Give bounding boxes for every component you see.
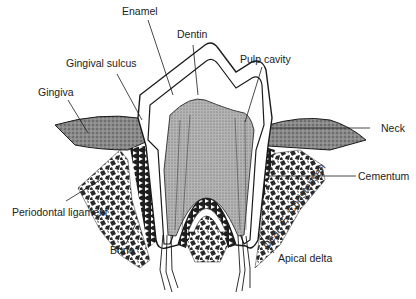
label-periodontal-ligament: Periodontal ligament [12, 206, 108, 218]
label-pulp-cavity: Pulp cavity [240, 53, 291, 65]
label-neck: Neck [381, 122, 405, 134]
leader-gingival-sulcus [117, 74, 142, 120]
label-gingiva: Gingiva [38, 86, 74, 98]
gingiva-right [265, 118, 366, 150]
label-bone: Bone [110, 244, 135, 256]
label-gingival-sulcus: Gingival sulcus [66, 57, 137, 69]
label-enamel: Enamel [122, 5, 158, 17]
label-dentin: Dentin [177, 28, 207, 40]
gingiva-left [55, 116, 150, 150]
label-apical-delta: Apical delta [278, 252, 332, 264]
label-cementum: Cementum [358, 170, 409, 182]
tooth-anatomy-diagram: Dean E. Christensen Enamel Dentin Gingiv… [0, 0, 416, 299]
